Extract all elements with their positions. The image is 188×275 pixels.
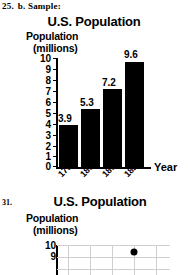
x-axis-label: Year (154, 161, 177, 173)
chart-title: U.S. Population (12, 194, 188, 209)
y-tick-0-text: 0 (45, 162, 51, 172)
figure-bar-chart-us-population: U.S. Population Population (millions) 10… (0, 12, 188, 190)
y-tick-3-text: 3 (45, 131, 51, 141)
gridline-vertical (68, 245, 69, 275)
exercise-25-number: 25. (2, 1, 14, 11)
y-tick-0: 0 (36, 161, 56, 172)
exercise-25-part: b. (18, 1, 26, 11)
gridline-vertical (90, 245, 91, 275)
y-tick-7-text: 7 (45, 87, 51, 97)
bar-1820 (125, 62, 144, 167)
y-tick-8: 8 (36, 75, 56, 86)
y-tick-4-text: 4 (45, 120, 51, 130)
y-tick-9-text: 9 (50, 252, 56, 262)
bar-value-1800: 5.3 (80, 97, 94, 108)
y-tick-4: 4 (36, 119, 56, 130)
bar-value-1820: 9.6 (124, 49, 138, 60)
gridline-horizontal (57, 245, 170, 246)
y-tick-9: 9 (36, 64, 56, 75)
bar-value-1810: 7.2 (102, 77, 116, 88)
y-tick-10: 10 (36, 53, 56, 64)
y-tick-5-text: 5 (45, 109, 51, 119)
y-tick-9-text: 9 (45, 65, 51, 75)
y-tick-10: 10 (36, 240, 56, 251)
bar-value-1790: 3.9 (58, 113, 72, 124)
y-tick-6: 6 (36, 97, 56, 108)
y-tick-3: 3 (36, 130, 56, 141)
y-tick-10-text: 10 (45, 241, 56, 251)
y-tick-5: 5 (36, 108, 56, 119)
y-tick-9: 9 (36, 251, 56, 262)
gridline-vertical (156, 245, 157, 275)
grid-area (57, 245, 170, 275)
figure-scatter-chart-us-population: U.S. Population Population (millions) 10… (0, 193, 188, 275)
y-tick-8-text: 8 (45, 76, 51, 86)
y-axis-label-line1: Population (26, 212, 78, 224)
chart-title: U.S. Population (0, 14, 188, 29)
y-tick-7: 7 (36, 86, 56, 97)
gridline-vertical (112, 245, 113, 275)
y-tick-10-text: 10 (40, 54, 51, 64)
y-tick-2-text: 2 (45, 142, 51, 152)
exercise-25-label: 25.b. Sample: (2, 1, 61, 11)
exercise-25-prompt: Sample: (28, 1, 61, 11)
y-axis-label-line2: (millions) (33, 224, 78, 236)
bar-1810 (103, 89, 122, 167)
y-tick-1-text: 1 (45, 152, 51, 162)
gridline-horizontal (57, 257, 170, 258)
data-point (131, 249, 138, 256)
y-tick-6-text: 6 (45, 98, 51, 108)
gridline-horizontal (57, 269, 170, 270)
y-axis-label-line1: Population (26, 30, 78, 42)
